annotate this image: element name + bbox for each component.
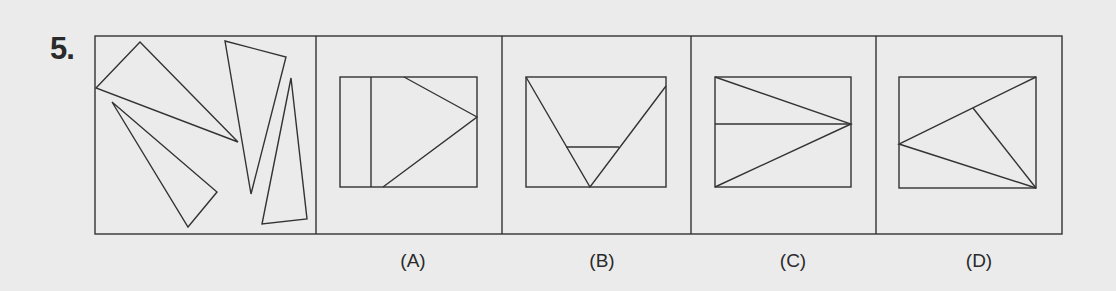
problem-figure: [96, 41, 307, 227]
triangle-shape: [112, 102, 217, 227]
option-a-label[interactable]: (A): [400, 250, 425, 272]
triangle-shape: [262, 78, 307, 224]
figure-strip: [0, 0, 1116, 291]
option-d-figure[interactable]: [899, 77, 1036, 188]
option-c-figure[interactable]: [715, 77, 851, 187]
triangle-shape: [96, 42, 238, 142]
option-b-figure[interactable]: [526, 77, 666, 187]
option-a-figure[interactable]: [340, 77, 477, 187]
option-c-label[interactable]: (C): [780, 250, 806, 272]
option-d-label[interactable]: (D): [966, 250, 992, 272]
option-b-label[interactable]: (B): [589, 250, 614, 272]
triangle-shape: [225, 41, 286, 194]
